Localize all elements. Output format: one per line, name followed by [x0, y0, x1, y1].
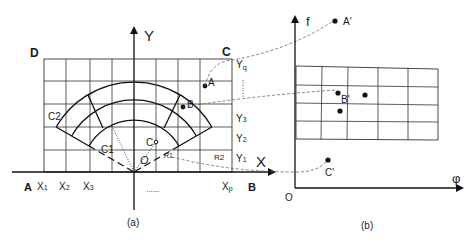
sector-r1-label: R1 — [164, 152, 173, 159]
point-c-label: C — [146, 137, 153, 148]
point-a-prime — [332, 18, 337, 23]
point-b-neighbor-2 — [337, 108, 342, 113]
right-grid — [296, 66, 438, 140]
point-b-label: B — [187, 99, 194, 110]
point-b-neighbor-1 — [362, 92, 367, 97]
sector-c2-label: C2 — [48, 111, 61, 122]
y-tick-labels: Yq Y3 Y2 Y1 — [236, 59, 247, 164]
svg-text:Xp: Xp — [222, 181, 233, 193]
panel-b: A' B' C' f φ O (b) — [285, 14, 462, 231]
mapping-curve-b — [183, 90, 336, 107]
point-c-prime — [325, 157, 330, 162]
figure-canvas: D C A B Y X X1 X2 X3 Xp ...... Yq Y3 Y2 … — [0, 0, 476, 244]
svg-text:Y1: Y1 — [236, 153, 247, 164]
x-ellipsis: ...... — [146, 185, 159, 194]
point-b-prime-label: B' — [341, 94, 350, 105]
corner-a-label: A — [24, 181, 32, 193]
origin-o-label: O — [285, 192, 293, 203]
y-axis-label: Y — [144, 27, 154, 44]
sector-r2-label: R2 — [214, 153, 225, 162]
corner-c-label: C — [222, 45, 231, 59]
point-c-prime-label: C' — [325, 167, 334, 178]
svg-text:Y2: Y2 — [236, 133, 247, 144]
svg-text:Yq: Yq — [236, 59, 247, 72]
point-c — [154, 140, 158, 144]
f-axis-label: f — [306, 14, 310, 29]
corner-b-label: B — [248, 181, 256, 193]
caption-b: (b) — [361, 220, 373, 231]
point-a-prime-label: A' — [343, 16, 352, 27]
right-edge — [179, 127, 212, 146]
svg-text:X3: X3 — [83, 181, 94, 192]
svg-text:X2: X2 — [59, 181, 70, 192]
point-b-prime — [335, 90, 340, 95]
phi-axis-label: φ — [452, 171, 460, 186]
sector-c1-label: C1 — [101, 144, 114, 155]
x-axis-label: X — [256, 153, 266, 170]
left-edge — [56, 127, 89, 146]
svg-text:Y3: Y3 — [236, 113, 247, 124]
svg-text:X1: X1 — [37, 181, 48, 192]
point-a-label: A — [208, 77, 215, 88]
corner-d-label: D — [30, 46, 39, 60]
caption-a: (a) — [127, 217, 139, 228]
mapping-curve-c — [172, 157, 327, 172]
x-tick-labels: X1 X2 X3 Xp ...... — [37, 181, 233, 194]
point-o-label: O — [140, 154, 149, 166]
